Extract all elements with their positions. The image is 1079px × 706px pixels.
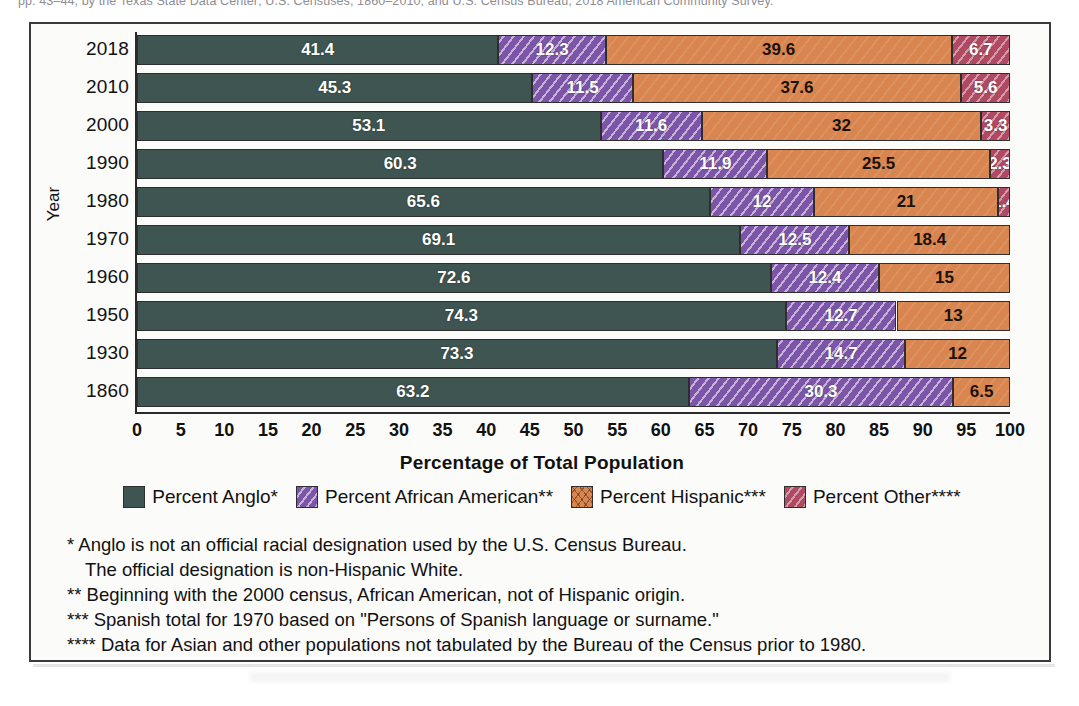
bar-segment-african: 12 bbox=[710, 187, 815, 217]
legend-swatch-other-icon bbox=[784, 486, 806, 508]
segment-value-label: 14.7 bbox=[825, 344, 858, 364]
bar-segment-anglo: 72.6 bbox=[137, 263, 771, 293]
bar-row: 197069.112.518.4 bbox=[31, 222, 1053, 260]
segment-value-label: 6.5 bbox=[970, 382, 994, 402]
bar-segment-other: 2.3 bbox=[990, 149, 1010, 179]
segment-value-label: 25.5 bbox=[862, 154, 895, 174]
x-tick-label: 15 bbox=[258, 420, 278, 441]
year-label: 1930 bbox=[61, 342, 129, 364]
legend-label: Percent African American** bbox=[325, 486, 553, 508]
bar-segment-african: 11.5 bbox=[532, 73, 632, 103]
year-label: 1970 bbox=[61, 228, 129, 250]
chart-frame: Year 201841.412.339.66.7201045.311.537.6… bbox=[29, 22, 1051, 662]
bar-segment-hispanic: 13 bbox=[897, 301, 1010, 331]
segment-value-label: 63.2 bbox=[396, 382, 429, 402]
bar-segment-anglo: 69.1 bbox=[137, 225, 740, 255]
bar-segment-anglo: 73.3 bbox=[137, 339, 777, 369]
x-tick-label: 100 bbox=[995, 420, 1025, 441]
x-tick-label: 90 bbox=[913, 420, 933, 441]
x-tick-label: 80 bbox=[825, 420, 845, 441]
bar-row: 201045.311.537.65.6 bbox=[31, 70, 1053, 108]
segment-value-label: 3.3 bbox=[984, 116, 1008, 136]
segment-value-label: 74.3 bbox=[445, 306, 478, 326]
legend-item-anglo[interactable]: Percent Anglo* bbox=[123, 486, 278, 508]
segment-value-label: 15 bbox=[935, 268, 954, 288]
bar-segment-other: 3.3 bbox=[981, 111, 1010, 141]
bar-segment-anglo: 60.3 bbox=[137, 149, 663, 179]
x-axis-ticks: 0510152025303540455055606570758085909510… bbox=[137, 420, 1010, 446]
footnote: * Anglo is not an official racial design… bbox=[67, 532, 1027, 557]
legend-swatch-anglo-icon bbox=[123, 486, 145, 508]
segment-value-label: 11.9 bbox=[699, 154, 731, 174]
stacked-bar: 73.314.712 bbox=[137, 339, 1010, 369]
bar-segment-anglo: 41.4 bbox=[137, 35, 498, 65]
year-label: 2010 bbox=[61, 76, 129, 98]
x-tick-label: 25 bbox=[345, 420, 365, 441]
bar-segment-hispanic: 18.4 bbox=[849, 225, 1010, 255]
segment-value-label: 12.5 bbox=[778, 230, 811, 250]
legend-label: Percent Hispanic*** bbox=[600, 486, 766, 508]
bar-segment-hispanic: 37.6 bbox=[633, 73, 961, 103]
segment-value-label: 11.5 bbox=[567, 78, 599, 98]
bar-row: 195074.312.713 bbox=[31, 298, 1053, 336]
stacked-bar: 74.312.713 bbox=[137, 301, 1010, 331]
x-tick-label: 60 bbox=[651, 420, 671, 441]
x-tick-label: 50 bbox=[563, 420, 583, 441]
footnote: **** Data for Asian and other population… bbox=[67, 632, 1027, 657]
legend-item-hispanic[interactable]: Percent Hispanic*** bbox=[571, 486, 766, 508]
bar-segment-african: 14.7 bbox=[777, 339, 905, 369]
year-label: 1990 bbox=[61, 152, 129, 174]
x-tick-label: 10 bbox=[214, 420, 234, 441]
stacked-bar: 53.111.6323.3 bbox=[137, 111, 1010, 141]
segment-value-label: 13 bbox=[944, 306, 963, 326]
legend-label: Percent Other**** bbox=[813, 486, 961, 508]
year-label: 1860 bbox=[61, 380, 129, 402]
bar-row: 186063.230.36.5 bbox=[31, 374, 1053, 412]
year-label: 2018 bbox=[61, 38, 129, 60]
legend-item-african[interactable]: Percent African American** bbox=[296, 486, 553, 508]
x-tick-label: 95 bbox=[956, 420, 976, 441]
segment-value-label: 12.7 bbox=[825, 306, 858, 326]
segment-value-label: 53.1 bbox=[352, 116, 385, 136]
bar-row: 193073.314.712 bbox=[31, 336, 1053, 374]
segment-value-label: 18.4 bbox=[913, 230, 946, 250]
stacked-bar: 41.412.339.66.7 bbox=[137, 35, 1010, 65]
bar-rows: 201841.412.339.66.7201045.311.537.65.620… bbox=[31, 32, 1053, 412]
legend-swatch-african-icon bbox=[296, 486, 318, 508]
bar-segment-hispanic: 6.5 bbox=[953, 377, 1010, 407]
x-axis-line bbox=[135, 412, 1010, 414]
bar-segment-hispanic: 32 bbox=[702, 111, 981, 141]
x-tick-label: 65 bbox=[694, 420, 714, 441]
bar-segment-anglo: 74.3 bbox=[137, 301, 786, 331]
bar-segment-african: 12.7 bbox=[786, 301, 897, 331]
segment-value-label: 12.3 bbox=[536, 40, 569, 60]
segment-value-label: 21 bbox=[897, 192, 916, 212]
x-tick-label: 0 bbox=[132, 420, 142, 441]
bar-row: 200053.111.6323.3 bbox=[31, 108, 1053, 146]
legend-label: Percent Anglo* bbox=[152, 486, 278, 508]
segment-value-label: 5.6 bbox=[974, 78, 998, 98]
segment-value-label: 11.6 bbox=[635, 116, 667, 136]
bar-segment-anglo: 63.2 bbox=[137, 377, 689, 407]
bar-row: 196072.612.415 bbox=[31, 260, 1053, 298]
x-axis-title: Percentage of Total Population bbox=[31, 452, 1053, 474]
x-tick-label: 5 bbox=[176, 420, 186, 441]
legend-item-other[interactable]: Percent Other**** bbox=[784, 486, 961, 508]
bar-segment-other: 6.7 bbox=[952, 35, 1010, 65]
bar-segment-african: 12.5 bbox=[740, 225, 849, 255]
source-credit-cutoff: pp. 43–44, by the Texas State Data Cente… bbox=[18, 0, 1058, 8]
footnote: *** Spanish total for 1970 based on "Per… bbox=[67, 607, 1027, 632]
stacked-bar: 63.230.36.5 bbox=[137, 377, 1010, 407]
bar-segment-anglo: 65.6 bbox=[137, 187, 710, 217]
bar-row: 198065.612211.4 bbox=[31, 184, 1053, 222]
bar-segment-hispanic: 21 bbox=[814, 187, 997, 217]
figure-page: pp. 43–44, by the Texas State Data Cente… bbox=[0, 0, 1079, 706]
x-tick-label: 40 bbox=[476, 420, 496, 441]
segment-value-label: 73.3 bbox=[440, 344, 473, 364]
segment-value-label: 32 bbox=[832, 116, 851, 136]
x-tick-label: 85 bbox=[869, 420, 889, 441]
segment-value-label: 69.1 bbox=[422, 230, 455, 250]
bar-segment-african: 11.6 bbox=[601, 111, 702, 141]
year-label: 1980 bbox=[61, 190, 129, 212]
x-tick-label: 35 bbox=[433, 420, 453, 441]
